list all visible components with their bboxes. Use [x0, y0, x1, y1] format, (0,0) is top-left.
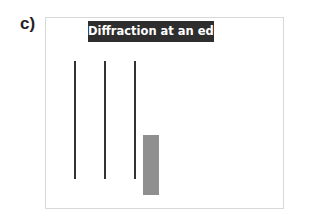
wavefront-line-2: [104, 61, 106, 179]
wavefront-line-3: [134, 61, 136, 179]
wavefront-line-1: [74, 61, 76, 179]
diagram-frame: [45, 17, 284, 209]
diagram-title: Diffraction at an edge: [88, 21, 214, 42]
edge-obstacle: [143, 135, 159, 195]
panel-label: c): [20, 14, 35, 34]
